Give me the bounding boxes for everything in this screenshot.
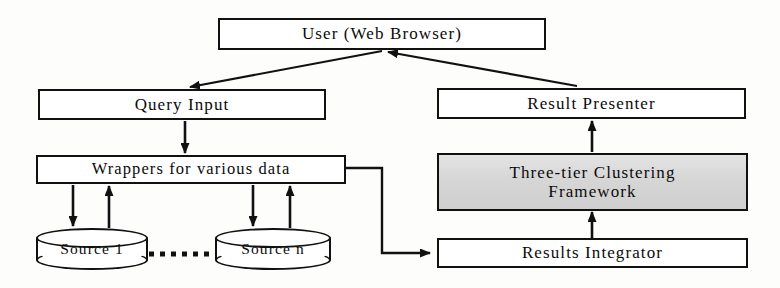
node-query-input-label: Query Input bbox=[135, 95, 230, 114]
node-result-presenter[interactable]: Result Presenter bbox=[437, 88, 746, 119]
edge-wrappers-to-integrator bbox=[346, 168, 430, 253]
node-user-label: User (Web Browser) bbox=[302, 24, 462, 43]
node-source-1[interactable]: Source 1 bbox=[36, 228, 148, 270]
node-user[interactable]: User (Web Browser) bbox=[218, 18, 546, 50]
node-three-tier-clustering-framework[interactable]: Three-tier Clustering Framework bbox=[437, 153, 748, 211]
node-result-presenter-label: Result Presenter bbox=[527, 94, 656, 113]
node-results-integrator[interactable]: Results Integrator bbox=[437, 238, 748, 268]
node-results-integrator-label: Results Integrator bbox=[522, 243, 663, 262]
node-three-tier-clustering-framework-label: Three-tier Clustering Framework bbox=[509, 163, 675, 201]
node-query-input[interactable]: Query Input bbox=[38, 89, 326, 120]
node-source-n-label: Source n bbox=[215, 228, 331, 270]
edge-presenter-to-user bbox=[388, 52, 577, 86]
node-wrappers-label: Wrappers for various data bbox=[92, 160, 291, 178]
node-source-1-label: Source 1 bbox=[36, 228, 148, 270]
architecture-diagram: User (Web Browser) Query Input Result Pr… bbox=[0, 0, 780, 288]
edge-user-to-query bbox=[190, 51, 382, 87]
node-wrappers[interactable]: Wrappers for various data bbox=[36, 155, 346, 184]
node-source-n[interactable]: Source n bbox=[215, 228, 331, 270]
